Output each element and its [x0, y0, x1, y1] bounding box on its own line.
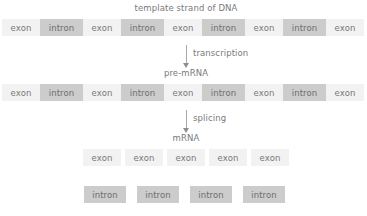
dna-exon-4: exon [245, 19, 283, 36]
pre-mrna-title: pre-mRNA [164, 68, 208, 78]
premrna-exon-5: exon [326, 84, 364, 101]
splicing-label: splicing [193, 113, 226, 123]
dna-exon-1: exon [2, 19, 40, 36]
excised-intron-spacer-3 [232, 186, 243, 203]
dna-intron-4: intron [283, 19, 326, 36]
dna-intron-3: intron [202, 19, 245, 36]
premrna-intron-3: intron [202, 84, 245, 101]
transcription-label: transcription [193, 48, 248, 58]
premrna-intron-4: intron [283, 84, 326, 101]
transcription-arrow [182, 45, 191, 69]
mrna-exon-3: exon [167, 149, 205, 166]
premrna-exon-3: exon [164, 84, 202, 101]
excised-intron-spacer-2 [179, 186, 190, 203]
dna-intron-1: intron [40, 19, 83, 36]
splicing-arrow-shaft [186, 110, 187, 129]
dna-intron-2: intron [121, 19, 164, 36]
excised-intron-spacer-1 [126, 186, 137, 203]
mrna-row: exon exon exon exon exon [83, 149, 289, 166]
excised-intron-3: intron [190, 186, 232, 203]
excised-intron-1: intron [84, 186, 126, 203]
mrna-exon-1: exon [83, 149, 121, 166]
premrna-exon-1: exon [2, 84, 40, 101]
mrna-title: mRNA [173, 133, 200, 143]
premrna-exon-4: exon [245, 84, 283, 101]
premrna-intron-1: intron [40, 84, 83, 101]
excised-introns-row: intron intron intron intron [84, 186, 285, 203]
splicing-arrow [182, 110, 191, 134]
mrna-exon-5: exon [251, 149, 289, 166]
excised-intron-2: intron [137, 186, 179, 203]
dna-strand-row: exon intron exon intron exon intron exon… [2, 19, 364, 36]
transcription-arrow-shaft [186, 45, 187, 64]
dna-strand-title: template strand of DNA [135, 3, 238, 13]
pre-mrna-row: exon intron exon intron exon intron exon… [2, 84, 364, 101]
mrna-exon-2: exon [125, 149, 163, 166]
premrna-exon-2: exon [83, 84, 121, 101]
dna-exon-5: exon [326, 19, 364, 36]
dna-exon-3: exon [164, 19, 202, 36]
excised-intron-4: intron [243, 186, 285, 203]
mrna-exon-4: exon [209, 149, 247, 166]
dna-exon-2: exon [83, 19, 121, 36]
premrna-intron-2: intron [121, 84, 164, 101]
